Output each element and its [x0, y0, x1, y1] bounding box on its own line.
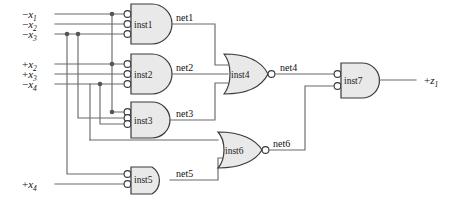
- net-label-net5: net5: [176, 168, 193, 179]
- junction-dot: [110, 12, 115, 17]
- gate-inst3[interactable]: inst3: [124, 102, 170, 138]
- junction-dot: [65, 32, 70, 37]
- gate-inst6[interactable]: inst6: [218, 132, 269, 168]
- input-bubble-icon: [124, 31, 131, 38]
- gate-inst7[interactable]: inst7: [334, 63, 379, 98]
- input-bubble-icon: [124, 11, 131, 18]
- input-bubble-icon: [124, 21, 131, 28]
- output-bubble-icon: [262, 147, 269, 154]
- input-bubble-icon: [124, 181, 131, 188]
- junction-dot: [98, 82, 103, 87]
- net-label-net3: net3: [176, 108, 193, 119]
- input-bubble-icon: [124, 61, 131, 68]
- input-bubble-icon: [124, 121, 131, 128]
- wire-x3n-to-inst3: [78, 34, 124, 118]
- net-label-net2: net2: [176, 62, 193, 73]
- gate-label-inst2: inst2: [134, 70, 153, 80]
- gate-inst5[interactable]: inst5: [124, 167, 159, 194]
- input-bubble-icon: [124, 171, 131, 178]
- gate-label-inst3: inst3: [134, 116, 153, 126]
- wire-x2p-to-inst3: [112, 64, 124, 112]
- net-label-net4: net4: [280, 62, 297, 73]
- input-label-x4p: +x4: [22, 178, 37, 193]
- input-labels: −x1 −x2 −x3 +x2 +x3 −x4 +x4: [22, 8, 37, 193]
- net-label-net1: net1: [176, 12, 193, 23]
- circuit-svg: inst1 inst2 inst3 inst5 inst4: [0, 0, 460, 206]
- gate-label-inst5: inst5: [134, 175, 153, 185]
- junction-dot: [110, 110, 115, 115]
- gate-label-inst6: inst6: [225, 146, 244, 156]
- output-label-z1: +z1: [424, 74, 438, 89]
- gate-label-inst4: inst4: [231, 70, 250, 80]
- input-bubble-icon: [124, 81, 131, 88]
- input-bubble-icon: [124, 71, 131, 78]
- output-labels: +z1: [424, 74, 438, 89]
- junction-dot: [110, 62, 115, 67]
- gate-inst2[interactable]: inst2: [124, 54, 172, 94]
- wire-net1: [172, 24, 228, 65]
- wire-x3n-to-inst5: [67, 34, 124, 174]
- gate-inst1[interactable]: inst1: [124, 4, 172, 44]
- distribution-wires: [67, 14, 124, 174]
- net-label-net6: net6: [273, 138, 290, 149]
- input-bubble-icon: [334, 83, 341, 90]
- gate-label-inst1: inst1: [134, 20, 153, 30]
- gate-inst4[interactable]: inst4: [224, 54, 275, 94]
- input-bubble-icon: [334, 71, 341, 78]
- output-bubble-icon: [268, 71, 275, 78]
- junction-dot: [76, 32, 81, 37]
- gate-label-inst7: inst7: [344, 76, 363, 86]
- circuit-diagram-canvas: inst1 inst2 inst3 inst5 inst4: [0, 0, 460, 206]
